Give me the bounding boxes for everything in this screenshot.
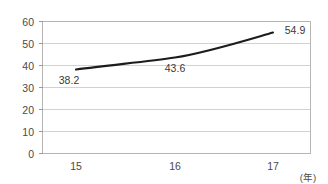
x-axis-unit-label: (年) bbox=[300, 172, 316, 183]
y-axis-label-10: 10 bbox=[22, 126, 34, 138]
y-axis-label-60: 60 bbox=[22, 16, 34, 28]
y-axis-label-20: 20 bbox=[22, 104, 34, 116]
line-chart: 60 50 40 30 20 10 0 15 16 17 (年) 38.2 43… bbox=[0, 0, 328, 184]
x-axis-label-15: 15 bbox=[70, 160, 82, 172]
data-label-38-2: 38.2 bbox=[59, 74, 80, 86]
y-axis-label-0: 0 bbox=[28, 148, 34, 160]
x-axis-label-17: 17 bbox=[267, 160, 279, 172]
chart-background bbox=[0, 0, 328, 184]
y-axis-label-50: 50 bbox=[22, 38, 34, 50]
data-label-54-9: 54.9 bbox=[285, 24, 306, 36]
y-axis-label-30: 30 bbox=[22, 82, 34, 94]
y-axis-label-40: 40 bbox=[22, 60, 34, 72]
data-label-43-6: 43.6 bbox=[165, 62, 186, 74]
x-axis-label-16: 16 bbox=[169, 160, 181, 172]
chart-canvas: 60 50 40 30 20 10 0 15 16 17 (年) 38.2 43… bbox=[0, 0, 328, 184]
